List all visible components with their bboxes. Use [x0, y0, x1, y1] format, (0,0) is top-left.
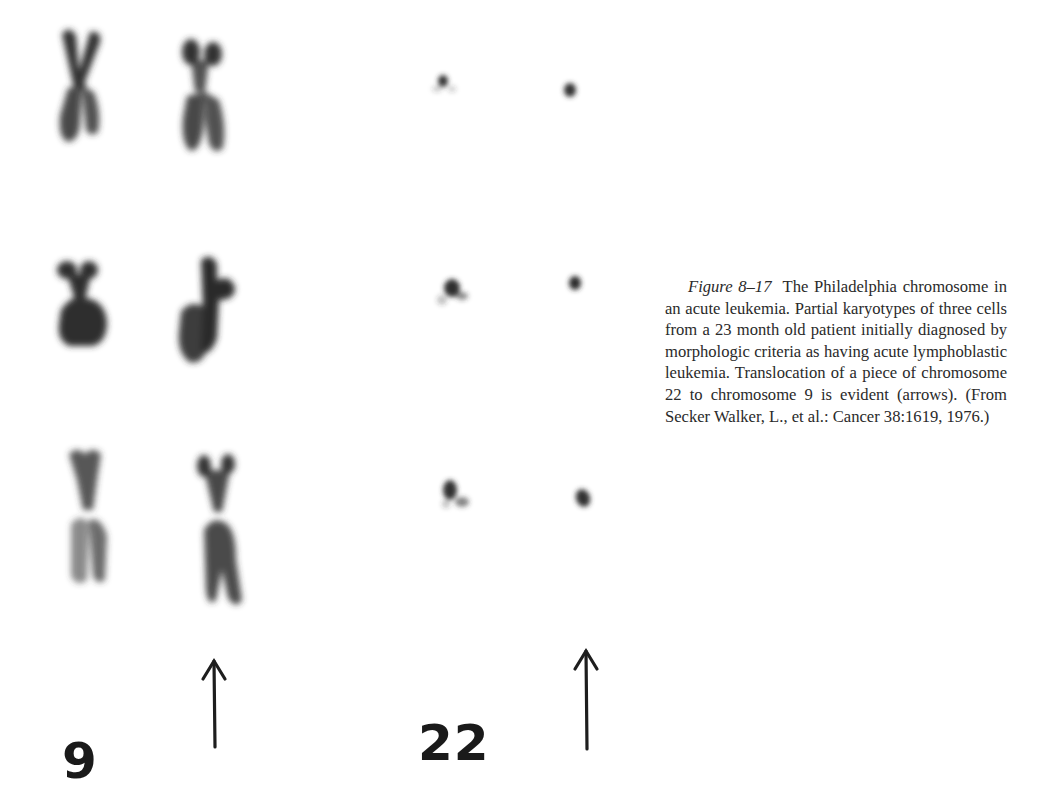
arrow-up-icon-chr9 — [200, 655, 228, 759]
chromosome-label-9: 9 — [62, 736, 97, 786]
chromosome-22-philadelphia-cell-1 — [555, 75, 585, 105]
chromosome-9-normal-cell-2 — [45, 250, 125, 360]
arrow-up-icon-chr22 — [572, 645, 600, 759]
chromosome-9-normal-cell-1 — [40, 20, 120, 160]
karyotype-figure: 9 22 — [0, 0, 640, 812]
chromosome-22-philadelphia-cell-3 — [565, 480, 605, 520]
chromosome-9-normal-cell-3 — [55, 440, 135, 600]
chromosome-22-normal-cell-1 — [425, 65, 465, 105]
figure-caption: Figure 8–17 The Philadelphia chromosome … — [665, 276, 1007, 427]
chromosome-22-normal-cell-3 — [432, 470, 482, 520]
chromosome-22-philadelphia-cell-2 — [560, 268, 590, 298]
chromosome-9-derivative-cell-3 — [190, 450, 270, 620]
chromosome-label-22: 22 — [418, 718, 490, 768]
chromosome-22-normal-cell-2 — [430, 270, 480, 315]
chromosome-9-derivative-cell-2 — [165, 248, 255, 378]
figure-number: Figure 8–17 — [688, 277, 771, 296]
chromosome-9-derivative-cell-1 — [165, 30, 245, 170]
